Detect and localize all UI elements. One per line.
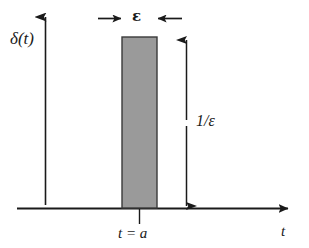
pulse-height-label: 1/ε <box>196 113 215 129</box>
pulse-position-label: t = a <box>118 226 147 241</box>
pulse-rectangle <box>122 37 157 208</box>
figure-canvas <box>0 0 309 248</box>
y-axis-label: δ(t) <box>10 30 34 47</box>
pulse-width-label: ε <box>132 9 141 24</box>
x-axis-label: t <box>281 224 285 239</box>
delta-function-figure: δ(t) ε 1/ε t = a t <box>0 0 309 248</box>
